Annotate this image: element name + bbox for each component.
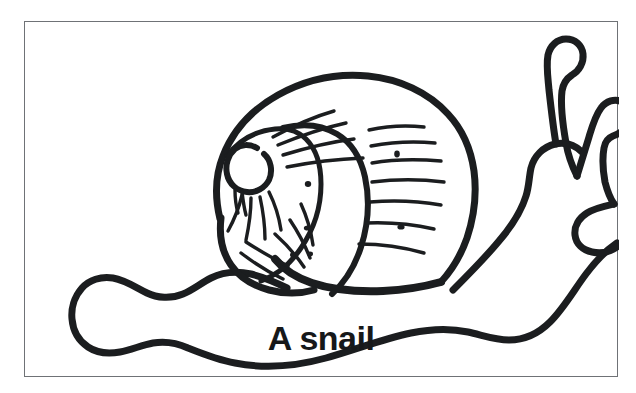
caption-text: A snail [25,318,617,358]
shell-outer-outline [217,75,476,282]
upper-tentacle-long [547,39,583,176]
page-root: A snail [0,0,636,393]
upper-tentacle-short [577,100,619,204]
illustration-frame: A snail [24,21,618,377]
shell-apex-spiral [226,145,271,192]
